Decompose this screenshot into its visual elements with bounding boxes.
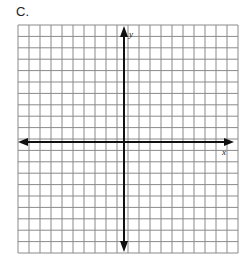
arrow-down-icon	[120, 241, 128, 252]
coordinate-grid: y x	[0, 0, 251, 273]
x-axis-label: x	[221, 147, 226, 157]
y-axis-label: y	[128, 29, 133, 39]
grid-lines	[18, 25, 238, 253]
arrow-up-icon	[120, 26, 128, 37]
